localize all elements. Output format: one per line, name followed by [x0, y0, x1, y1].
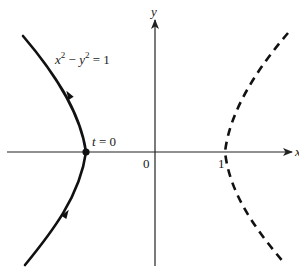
y-axis-label: y	[149, 4, 157, 19]
equation-label: x2 − y2 = 1	[54, 50, 110, 67]
left-branch-curve	[23, 36, 86, 265]
vertex-point	[82, 148, 89, 155]
eq-rhs: = 1	[89, 52, 109, 67]
eq-minus: −	[65, 52, 79, 67]
point-label-rest: = 0	[96, 134, 116, 149]
right-branch-curve	[225, 33, 288, 264]
origin-label: 0	[143, 156, 150, 171]
point-label: t = 0	[92, 134, 116, 149]
tick-one-label: 1	[218, 156, 225, 171]
x-axis-label: x	[294, 144, 299, 159]
hyperbola-diagram: y x 0 1 t = 0 x2 − y2 = 1	[0, 0, 299, 274]
